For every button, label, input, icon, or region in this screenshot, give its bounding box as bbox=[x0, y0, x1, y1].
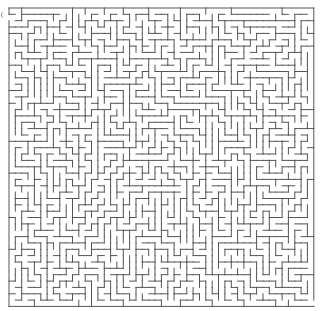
maze-grid bbox=[0, 0, 323, 311]
maze-walls bbox=[9, 8, 314, 306]
